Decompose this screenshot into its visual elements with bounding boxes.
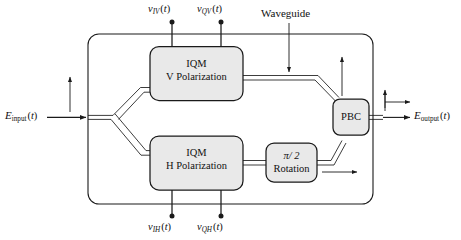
label-drive-qv: vQV (t) (197, 3, 222, 15)
label-drive-ih: vIH (t) (148, 221, 171, 233)
waveguide-v-out-lower (243, 80, 336, 102)
block-rotation[interactable] (266, 143, 317, 182)
waveguide-split-upper-outer (113, 88, 151, 116)
waveguide-h-out-lower (317, 143, 346, 165)
block-pbc[interactable] (333, 99, 369, 135)
drive-node-qv (219, 20, 224, 25)
label-drive-qh: vQH (t) (197, 221, 223, 233)
label-output-signal: Eoutput (t) (414, 110, 450, 122)
waveguide-v-out-upper (243, 76, 339, 98)
diagram-vector-layer (0, 0, 461, 240)
drive-node-ih (170, 214, 175, 219)
label-waveguide: Waveguide (261, 8, 310, 20)
drive-node-iv (170, 20, 175, 25)
label-drive-iv: vIV (t) (148, 3, 170, 15)
block-iqm-v[interactable] (150, 47, 243, 101)
label-input-signal: Einput (t) (5, 110, 37, 122)
diagram-canvas: vIV (t) vQV (t) vIH (t) vQH (t) Einput (… (0, 0, 461, 240)
drive-node-qh (219, 214, 224, 219)
block-iqm-h[interactable] (150, 136, 243, 190)
pol-indicator-output-combined (385, 92, 410, 111)
drive-stems-bottom (172, 190, 221, 216)
waveguide-split-upper-inner (119, 92, 152, 119)
